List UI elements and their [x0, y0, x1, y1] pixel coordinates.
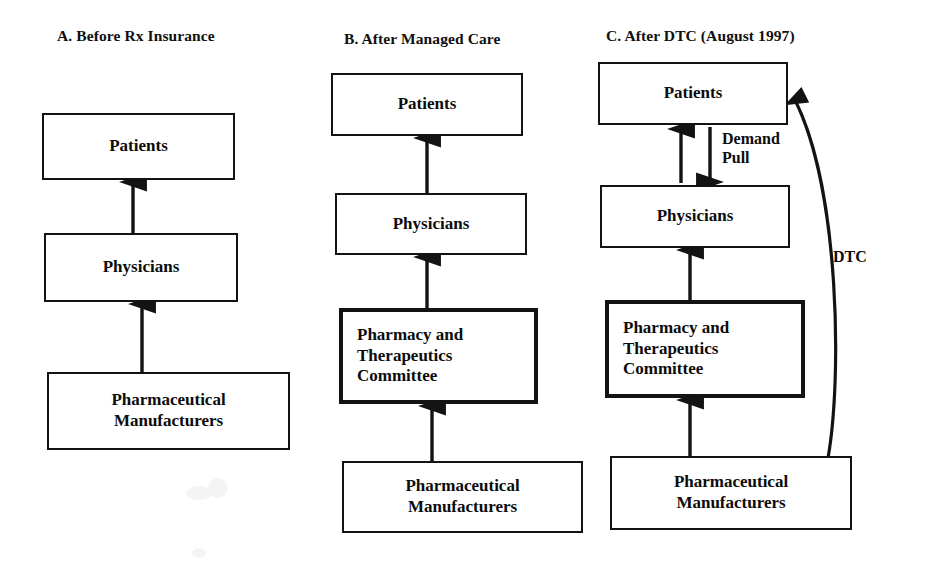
- node-label-c-pt-committee: Pharmacy and Therapeutics Committee: [609, 318, 801, 380]
- panel-title-a: A. Before Rx Insurance: [57, 27, 215, 45]
- diagram-canvas: PatientsPhysiciansPharmaceutical Manufac…: [0, 0, 925, 577]
- node-a-physicians: Physicians: [44, 233, 238, 302]
- panel-title-c: C. After DTC (August 1997): [606, 27, 795, 45]
- edge-label-c-dtc-label: DTC: [833, 248, 867, 267]
- node-label-b-pt-committee: Pharmacy and Therapeutics Committee: [343, 325, 534, 387]
- node-b-patients: Patients: [331, 73, 523, 136]
- node-label-c-physicians: Physicians: [653, 206, 738, 227]
- node-label-a-patients: Patients: [105, 136, 172, 157]
- edge-label-c-demand-pull-label: Demand Pull: [722, 130, 780, 168]
- node-a-manufacturers: Pharmaceutical Manufacturers: [47, 372, 290, 450]
- node-c-physicians: Physicians: [600, 185, 790, 248]
- node-label-c-manufacturers: Pharmaceutical Manufacturers: [670, 472, 792, 513]
- node-b-pt-committee: Pharmacy and Therapeutics Committee: [339, 308, 538, 404]
- node-c-pt-committee: Pharmacy and Therapeutics Committee: [605, 300, 805, 398]
- node-b-physicians: Physicians: [335, 193, 527, 255]
- panel-title-b: B. After Managed Care: [344, 30, 501, 48]
- node-a-patients: Patients: [42, 113, 235, 180]
- node-label-b-manufacturers: Pharmaceutical Manufacturers: [401, 476, 523, 517]
- node-c-manufacturers: Pharmaceutical Manufacturers: [610, 456, 852, 530]
- node-label-b-patients: Patients: [394, 94, 461, 115]
- node-label-a-manufacturers: Pharmaceutical Manufacturers: [107, 390, 229, 431]
- node-label-a-physicians: Physicians: [99, 257, 184, 278]
- node-c-patients: Patients: [598, 62, 788, 125]
- node-b-manufacturers: Pharmaceutical Manufacturers: [342, 461, 583, 533]
- node-label-b-physicians: Physicians: [389, 214, 474, 235]
- node-label-c-patients: Patients: [660, 83, 727, 104]
